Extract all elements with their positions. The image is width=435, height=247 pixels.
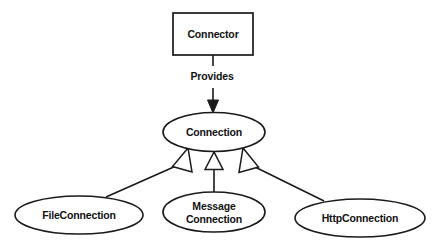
node-file-connection[interactable]: FileConnection <box>15 196 143 234</box>
node-message-connection-label-line1: Message <box>192 200 236 212</box>
edge-message-inherits <box>205 152 223 192</box>
node-message-connection-ellipse[interactable] <box>163 192 265 232</box>
node-connector-label: Connector <box>187 28 238 40</box>
provides-arrowhead-icon <box>208 100 219 113</box>
uml-diagram-canvas: Provides Connector Connection <box>0 0 435 247</box>
edge-label-provides: Provides <box>190 70 233 82</box>
node-connection[interactable]: Connection <box>163 113 265 152</box>
edge-provides: Provides <box>190 55 233 113</box>
node-connector[interactable]: Connector <box>173 13 253 55</box>
edge-file-inherits <box>106 148 192 197</box>
edge-http-inherits <box>239 148 324 201</box>
file-inherits-line <box>106 166 176 197</box>
node-file-connection-label: FileConnection <box>42 209 116 221</box>
node-http-connection[interactable]: HttpConnection <box>295 199 425 237</box>
http-inherits-line <box>255 167 324 201</box>
http-inherits-triangle-icon <box>239 148 259 173</box>
node-connection-label: Connection <box>186 126 242 138</box>
file-inherits-triangle-icon <box>173 148 193 172</box>
node-message-connection[interactable]: Message Connection <box>163 192 265 232</box>
message-inherits-triangle-icon <box>205 152 223 170</box>
node-message-connection-label-line2: Connection <box>186 213 242 225</box>
node-http-connection-label: HttpConnection <box>322 212 399 224</box>
diagram-svg: Provides Connector Connection <box>0 0 435 247</box>
